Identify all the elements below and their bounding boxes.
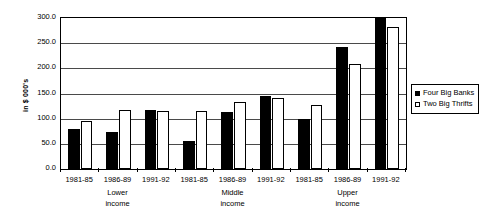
y-axis-tick-label: 100.0: [24, 114, 56, 122]
x-axis-income-line-1: Lower: [98, 187, 136, 198]
legend-item-label: Four Big Banks: [423, 88, 474, 98]
y-axis-tick-label: 300.0: [24, 13, 56, 21]
bar-banks-1: [106, 132, 118, 169]
y-axis-tick-label: 250.0: [24, 38, 56, 46]
x-axis-group-label: 1981-85: [290, 174, 328, 185]
bar-thrifts-1: [119, 110, 131, 169]
x-axis-group-label: 1981-85: [60, 174, 98, 185]
bar-thrifts-7: [349, 64, 361, 169]
x-axis-tick: [60, 168, 61, 172]
x-axis-period-label: 1986-89: [213, 174, 251, 185]
legend-item: Two Big Thrifts: [415, 99, 474, 109]
x-axis-income-line-1: Upper: [328, 187, 366, 198]
x-axis-labels: 1981-851986-89Lowerincome1991-921981-851…: [60, 174, 405, 219]
x-axis-tick: [405, 168, 406, 172]
x-axis-period-label: 1981-85: [175, 174, 213, 185]
y-axis-tick-label: 0.0: [24, 164, 56, 172]
x-axis-income-label: Upperincome: [328, 187, 366, 209]
x-axis-tick: [98, 168, 99, 172]
x-axis-tick: [213, 168, 214, 172]
bar-banks-6: [298, 119, 310, 169]
bar-thrifts-6: [311, 105, 323, 169]
x-axis-group-label: 1986-89Upperincome: [328, 174, 366, 209]
legend-item: Four Big Banks: [415, 88, 474, 98]
bar-banks-2: [145, 110, 157, 169]
x-axis-group-label: 1981-85: [175, 174, 213, 185]
x-axis-tick: [367, 168, 368, 172]
x-axis-period-label: 1986-89: [328, 174, 366, 185]
category-tick-marks: [60, 168, 407, 173]
x-axis-tick: [290, 168, 291, 172]
bar-banks-0: [68, 129, 80, 169]
x-axis-period-label: 1991-92: [367, 174, 405, 185]
y-axis-tick-label: 50.0: [24, 139, 56, 147]
x-axis-tick: [328, 168, 329, 172]
y-axis-tick-labels: 0.050.0100.0150.0200.0250.0300.0: [24, 0, 58, 219]
bar-banks-7: [336, 47, 348, 169]
x-axis-income-label: Middleincome: [213, 187, 251, 209]
x-axis-group-label: 1991-92: [252, 174, 290, 185]
y-axis-tick-label: 200.0: [24, 63, 56, 71]
bar-thrifts-2: [157, 111, 169, 169]
bars-layer: [61, 18, 406, 169]
bar-banks-8: [375, 18, 387, 169]
x-axis-tick: [137, 168, 138, 172]
x-axis-group-label: 1986-89Middleincome: [213, 174, 251, 209]
bar-chart: in $ 000's 0.050.0100.0150.0200.0250.030…: [0, 0, 504, 219]
bar-banks-5: [260, 96, 272, 169]
x-axis-income-line-2: income: [98, 198, 136, 209]
filled-square-icon: [415, 91, 420, 96]
plot-area: [60, 17, 407, 170]
bar-thrifts-0: [81, 121, 93, 169]
x-axis-income-label: Lowerincome: [98, 187, 136, 209]
bar-banks-4: [221, 112, 233, 169]
x-axis-income-line-2: income: [328, 198, 366, 209]
x-axis-tick: [175, 168, 176, 172]
hollow-square-icon: [415, 102, 420, 107]
bar-thrifts-5: [272, 98, 284, 169]
x-axis-period-label: 1986-89: [98, 174, 136, 185]
x-axis-group-label: 1991-92: [367, 174, 405, 185]
x-axis-tick: [252, 168, 253, 172]
bar-thrifts-4: [234, 102, 246, 169]
bar-thrifts-3: [196, 111, 208, 169]
x-axis-group-label: 1986-89Lowerincome: [98, 174, 136, 209]
x-axis-group-label: 1991-92: [137, 174, 175, 185]
y-axis-tick-label: 150.0: [24, 89, 56, 97]
x-axis-period-label: 1991-92: [137, 174, 175, 185]
bar-thrifts-8: [387, 27, 399, 169]
x-axis-period-label: 1991-92: [252, 174, 290, 185]
x-axis-income-line-1: Middle: [213, 187, 251, 198]
x-axis-period-label: 1981-85: [60, 174, 98, 185]
legend-item-label: Two Big Thrifts: [423, 99, 472, 109]
x-axis-period-label: 1981-85: [290, 174, 328, 185]
x-axis-income-line-2: income: [213, 198, 251, 209]
bar-banks-3: [183, 141, 195, 169]
chart-legend: Four Big BanksTwo Big Thrifts: [411, 84, 479, 114]
